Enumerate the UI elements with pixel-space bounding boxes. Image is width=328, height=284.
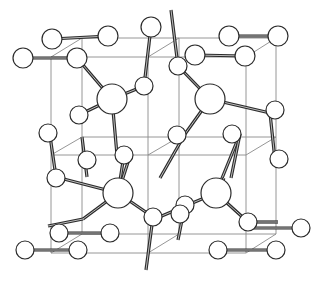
small-atom bbox=[13, 48, 33, 68]
small-atom bbox=[268, 26, 288, 46]
bond bbox=[48, 219, 83, 226]
large-atom bbox=[201, 178, 231, 208]
small-atom bbox=[67, 48, 87, 68]
cell-edge bbox=[148, 234, 179, 253]
small-atom bbox=[39, 124, 57, 142]
small-atom bbox=[270, 150, 288, 168]
small-atom bbox=[223, 125, 241, 143]
small-atom bbox=[171, 205, 189, 223]
small-atom bbox=[235, 46, 255, 66]
large-atom bbox=[195, 84, 225, 114]
small-atom bbox=[219, 26, 239, 46]
large-atom bbox=[97, 84, 127, 114]
small-atom bbox=[42, 29, 62, 49]
small-atom bbox=[267, 241, 285, 259]
cell-edge bbox=[51, 137, 82, 155]
small-atom bbox=[169, 57, 187, 75]
unit-cell-drawing bbox=[0, 0, 328, 284]
small-atom bbox=[16, 241, 34, 259]
small-atom bbox=[101, 224, 119, 242]
small-atom bbox=[69, 241, 87, 259]
small-atom bbox=[141, 17, 161, 37]
small-atom bbox=[144, 208, 162, 226]
small-atom bbox=[292, 219, 310, 237]
small-atom bbox=[185, 45, 205, 65]
small-atom bbox=[98, 26, 118, 46]
small-atom bbox=[209, 241, 227, 259]
small-atom bbox=[70, 106, 88, 124]
large-atom bbox=[103, 178, 133, 208]
small-atom bbox=[78, 151, 96, 169]
small-atom bbox=[115, 146, 133, 164]
small-atom bbox=[135, 77, 153, 95]
small-atom bbox=[239, 213, 257, 231]
small-atom bbox=[50, 224, 68, 242]
small-atom bbox=[266, 101, 284, 119]
small-atom bbox=[47, 169, 65, 187]
crystal-structure-diagram bbox=[0, 0, 328, 284]
small-atom bbox=[168, 126, 186, 144]
